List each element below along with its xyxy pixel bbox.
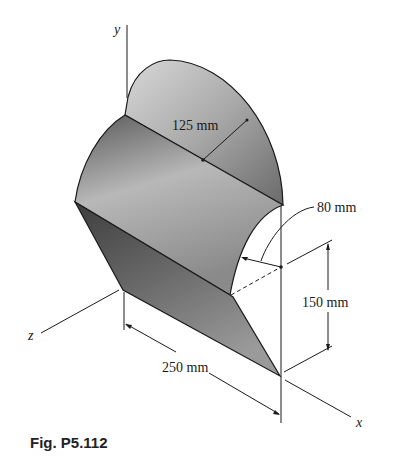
radius-end-dot: [246, 119, 249, 122]
radius-80-arrowhead: [241, 257, 248, 261]
dimension-250mm: 250 mm: [162, 360, 208, 375]
dimension-150mm: 150 mm: [302, 295, 348, 310]
z-axis: [41, 290, 119, 333]
dimension-125mm: 125 mm: [172, 118, 218, 133]
dimension-80mm: 80 mm: [317, 200, 356, 215]
leader-80mm: [261, 207, 314, 261]
hidden-edge-dashed: [231, 267, 281, 295]
figure-canvas: y 125 mm 80 mm 150 mm z x 250 mm Fig. P5…: [0, 0, 404, 459]
x-axis-label: x: [355, 415, 363, 430]
dim-250-line-left: [126, 324, 176, 352]
x-axis: [285, 380, 351, 417]
figure-caption: Fig. P5.112: [30, 434, 108, 451]
y-axis-label: y: [112, 22, 121, 37]
dim-250-arrow-left: [125, 324, 132, 329]
z-axis-label: z: [27, 328, 34, 343]
dim-250-line-right: [209, 373, 279, 414]
center-dot-top: [201, 158, 205, 162]
extension-line-bottom: [284, 346, 332, 372]
dim-150-arrow-up: [326, 243, 330, 250]
extension-line-top: [287, 240, 332, 264]
